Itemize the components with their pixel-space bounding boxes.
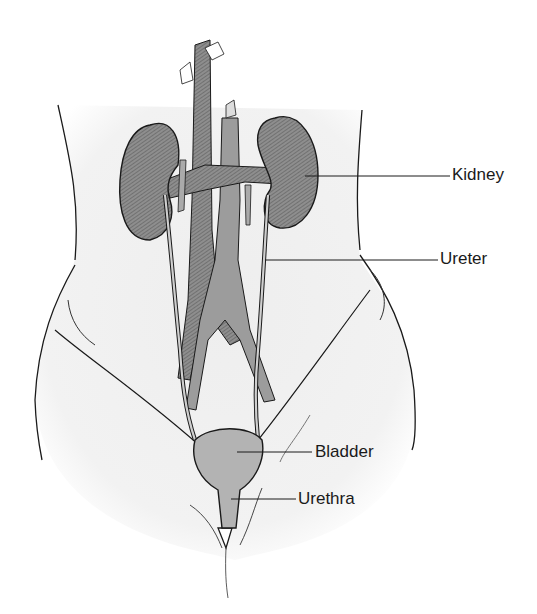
anatomy-illustration <box>0 0 537 614</box>
label-urethra: Urethra <box>298 490 355 507</box>
label-kidney: Kidney <box>452 166 504 183</box>
label-bladder: Bladder <box>315 443 374 460</box>
label-ureter: Ureter <box>440 250 487 267</box>
urinary-system-diagram: Kidney Ureter Bladder Urethra <box>0 0 537 614</box>
